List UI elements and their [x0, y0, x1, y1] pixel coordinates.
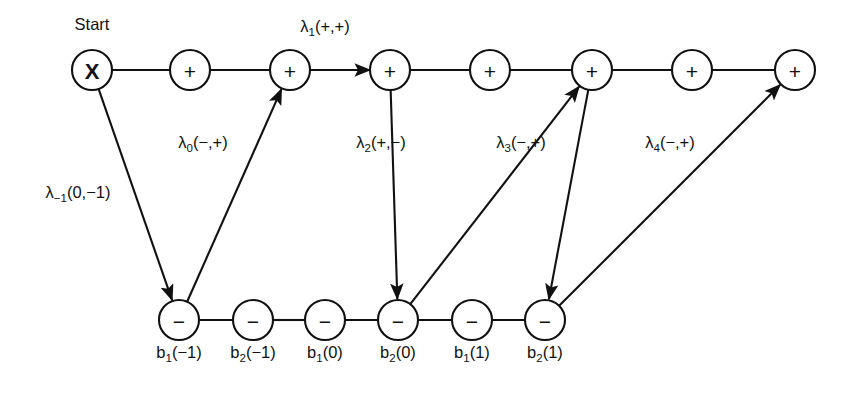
- plus-glyph: +: [789, 60, 801, 83]
- diagonal-edge-layer: [99, 85, 781, 306]
- minus-glyph: −: [392, 310, 404, 333]
- x-glyph: X: [85, 59, 100, 84]
- plus-glyph: +: [284, 60, 296, 83]
- diagonal-transition-edge: [559, 85, 780, 306]
- plus-glyph: +: [686, 60, 698, 83]
- bottom-node-label: b1(0): [307, 343, 343, 364]
- node-layer: X+++++++−−−−−−: [72, 50, 815, 340]
- minus-glyph: −: [539, 310, 551, 333]
- top-row-node[interactable]: +: [470, 50, 510, 90]
- bottom-node-label: b2(−1): [230, 343, 275, 364]
- trellis-canvas: X+++++++−−−−−− Startb1(−1)b2(−1)b1(0)b2(…: [0, 0, 860, 395]
- bottom-node-label: b2(0): [380, 343, 416, 364]
- bottom-row-node[interactable]: −: [233, 300, 273, 340]
- lambda-label: λ1(+,+): [300, 17, 350, 38]
- bottom-node-label: b2(1): [527, 343, 563, 364]
- top-row-node[interactable]: +: [572, 50, 612, 90]
- bottom-row-node[interactable]: −: [378, 300, 418, 340]
- minus-glyph: −: [466, 310, 478, 333]
- lambda-label: λ0(−,+): [178, 133, 228, 154]
- bottom-row-node[interactable]: −: [305, 300, 345, 340]
- top-row-node[interactable]: +: [170, 50, 210, 90]
- trellis-figure: X+++++++−−−−−− Startb1(−1)b2(−1)b1(0)b2(…: [0, 0, 860, 395]
- bottom-node-label: b1(1): [454, 343, 490, 364]
- top-row-node[interactable]: X: [72, 50, 112, 90]
- plus-glyph: +: [384, 60, 396, 83]
- chain-edge-layer: [112, 70, 775, 320]
- plus-glyph: +: [184, 60, 196, 83]
- diagonal-transition-edge: [187, 89, 281, 302]
- lambda-label: λ−1(0,−1): [46, 183, 111, 204]
- lambda-label: λ3(−,+): [496, 133, 546, 154]
- top-row-node[interactable]: +: [270, 50, 310, 90]
- bottom-row-node[interactable]: −: [159, 300, 199, 340]
- top-row-node[interactable]: +: [672, 50, 712, 90]
- bottom-row-node[interactable]: −: [452, 300, 492, 340]
- plus-glyph: +: [484, 60, 496, 83]
- bottom-row-node[interactable]: −: [525, 300, 565, 340]
- diagonal-transition-edge: [391, 90, 398, 299]
- start-label: Start: [75, 15, 110, 33]
- minus-glyph: −: [247, 310, 259, 333]
- top-row-node[interactable]: +: [775, 50, 815, 90]
- diagonal-transition-edge: [549, 90, 588, 300]
- bottom-node-label: b1(−1): [156, 343, 201, 364]
- minus-glyph: −: [173, 310, 185, 333]
- plus-glyph: +: [586, 60, 598, 83]
- lambda-label: λ2(+,−): [356, 133, 406, 154]
- lambda-label: λ4(−,+): [645, 133, 695, 154]
- minus-glyph: −: [319, 310, 331, 333]
- top-row-node[interactable]: +: [370, 50, 410, 90]
